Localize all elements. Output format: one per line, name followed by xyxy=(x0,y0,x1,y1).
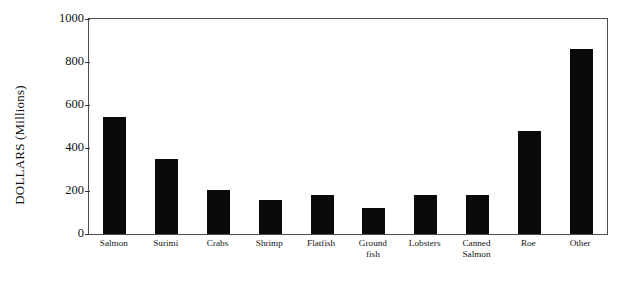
y-tick-label: 200 xyxy=(48,184,84,197)
y-tick-label: 1000 xyxy=(48,12,84,25)
bar xyxy=(311,195,334,234)
x-tick-label: Ground fish xyxy=(345,238,401,260)
y-tick-mark xyxy=(85,62,90,63)
bar xyxy=(466,195,489,234)
x-tick-label: Canned Salmon xyxy=(449,238,505,260)
x-tick-label: Surimi xyxy=(138,238,194,249)
plot-area xyxy=(88,18,608,235)
y-axis-tick-labels: 02004006008001000 xyxy=(44,0,84,289)
y-tick-mark xyxy=(85,105,90,106)
bar xyxy=(155,159,178,234)
bar xyxy=(207,190,230,234)
y-axis-title-text: DOLLARS (Millions) xyxy=(12,85,28,205)
y-tick-mark xyxy=(85,148,90,149)
x-tick-label: Roe xyxy=(500,238,556,249)
y-tick-mark xyxy=(85,191,90,192)
y-axis-title: DOLLARS (Millions) xyxy=(8,60,32,230)
y-tick-label: 0 xyxy=(48,227,84,240)
x-axis-tick-labels: SalmonSurimiCrabsShrimpFlatfishGround fi… xyxy=(88,238,608,286)
x-tick-label: Lobsters xyxy=(397,238,453,249)
y-tick-label: 800 xyxy=(48,55,84,68)
x-tick-label: Shrimp xyxy=(241,238,297,249)
bar xyxy=(103,117,126,234)
bar-chart-figure: DOLLARS (Millions) 02004006008001000 Sal… xyxy=(0,0,636,289)
bar xyxy=(362,208,385,234)
y-tick-label: 600 xyxy=(48,98,84,111)
y-tick-mark xyxy=(85,19,90,20)
bar xyxy=(570,49,593,234)
x-tick-label: Flatfish xyxy=(293,238,349,249)
y-tick-mark xyxy=(85,234,90,235)
plot-inner xyxy=(89,19,607,234)
bar xyxy=(259,200,282,234)
bar xyxy=(518,131,541,234)
x-tick-label: Crabs xyxy=(190,238,246,249)
bar xyxy=(414,195,437,234)
x-tick-label: Other xyxy=(552,238,608,249)
y-tick-label: 400 xyxy=(48,141,84,154)
x-tick-label: Salmon xyxy=(86,238,142,249)
